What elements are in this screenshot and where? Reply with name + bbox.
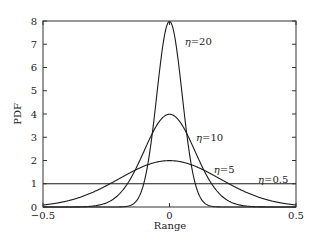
curve-label: η=0.5 <box>258 174 288 185</box>
curve-label: η=20 <box>185 36 212 47</box>
y-tick-label: 7 <box>31 39 37 50</box>
x-axis-ticks: −0.500.5 <box>31 21 304 221</box>
curve-label: η=5 <box>214 164 235 175</box>
x-tick-label: −0.5 <box>31 210 55 221</box>
y-tick-label: 5 <box>31 85 37 96</box>
y-axis-label: PDF <box>12 103 23 125</box>
y-tick-label: 3 <box>31 132 37 143</box>
y-tick-label: 4 <box>31 109 37 120</box>
x-axis-label: Range <box>154 220 187 231</box>
pdf-line-chart: 012345678 −0.500.5 Range PDF η=20η=10η=5… <box>0 0 316 251</box>
y-tick-label: 2 <box>31 155 37 166</box>
x-tick-label: 0.5 <box>288 210 304 221</box>
y-tick-label: 1 <box>31 178 37 189</box>
curve-label: η=10 <box>196 132 223 143</box>
y-tick-label: 6 <box>31 62 37 73</box>
y-tick-label: 8 <box>31 16 37 27</box>
